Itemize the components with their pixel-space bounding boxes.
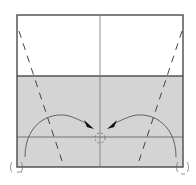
origami-diagram [0, 0, 196, 185]
